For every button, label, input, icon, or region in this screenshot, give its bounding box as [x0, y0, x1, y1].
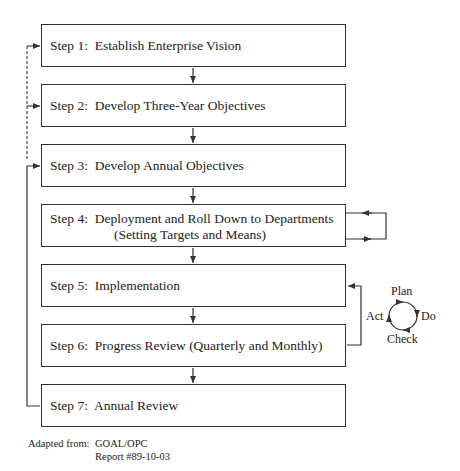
step-4-subtext: (Setting Targets and Means) — [114, 227, 266, 242]
step-7-box: Step 7: Annual Review — [41, 384, 346, 427]
step-6-box: Step 6: Progress Review (Quarterly and M… — [41, 324, 346, 367]
caption-report: Report #89-10-03 — [95, 450, 170, 463]
pdca-cycle-icon — [389, 302, 417, 330]
step-4-box: Step 4: Deployment and Roll Down to Depa… — [41, 204, 346, 247]
step-5-box: Step 5: Implementation — [41, 264, 346, 307]
pdca-do-label: Do — [421, 310, 436, 323]
step-3-box: Step 3: Develop Annual Objectives — [41, 144, 346, 187]
caption-source: GOAL/OPC — [95, 437, 148, 450]
caption-prefix: Adapted from: — [28, 438, 90, 449]
step-6-text: Step 6: Progress Review (Quarterly and M… — [50, 338, 323, 353]
pdca-check-label: Check — [387, 333, 418, 346]
step-5-text: Step 5: Implementation — [50, 278, 180, 293]
step-7-text: Step 7: Annual Review — [50, 398, 178, 413]
step-2-text: Step 2: Develop Three-Year Objectives — [50, 98, 265, 113]
step-4-text: Step 4: Deployment and Roll Down to Depa… — [50, 211, 333, 226]
step-3-text: Step 3: Develop Annual Objectives — [50, 158, 244, 173]
step-1-box: Step 1: Establish Enterprise Vision — [41, 24, 346, 67]
step-1-text: Step 1: Establish Enterprise Vision — [50, 38, 241, 53]
pdca-plan-label: Plan — [391, 285, 412, 298]
step-2-box: Step 2: Develop Three-Year Objectives — [41, 84, 346, 127]
caption: Adapted from: — [28, 437, 90, 450]
pdca-act-label: Act — [366, 310, 383, 323]
